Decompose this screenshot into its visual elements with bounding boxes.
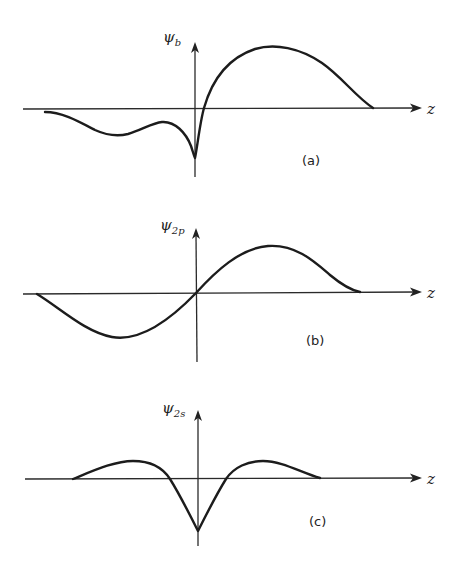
psi-2s-curve <box>73 461 320 531</box>
panel-a: z ψb (a) <box>23 28 435 177</box>
z-axis <box>23 108 416 109</box>
z-axis-label: z <box>426 100 435 118</box>
panel-b-label: (b) <box>306 333 324 348</box>
psi-b-curve <box>45 47 373 158</box>
panel-b: z ψ2p (b) <box>23 216 435 362</box>
panel-c: z ψ2s (c) <box>25 399 435 546</box>
z-axis <box>25 478 416 479</box>
psi-axis-label: ψ2s <box>162 399 185 419</box>
psi-axis <box>196 234 197 362</box>
psi-axis-label: ψb <box>163 28 181 48</box>
z-axis-label: z <box>426 284 435 302</box>
figure-canvas: z ψb (a) z ψ2p (b) <box>0 0 460 561</box>
panel-a-label: (a) <box>302 153 320 168</box>
panel-c-label: (c) <box>309 514 326 529</box>
psi-axis-label: ψ2p <box>160 216 185 236</box>
z-axis-label: z <box>426 470 435 488</box>
psi-2p-curve <box>37 246 360 338</box>
wavefunction-diagram: z ψb (a) z ψ2p (b) <box>0 0 460 561</box>
